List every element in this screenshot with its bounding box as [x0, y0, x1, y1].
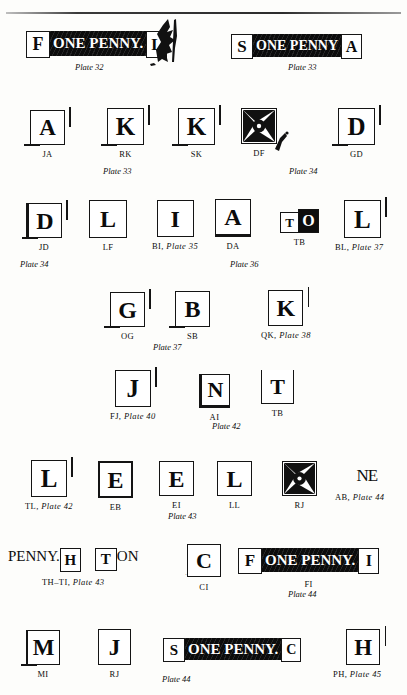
- corner-letter-ll: L LL: [217, 461, 252, 510]
- corner-letter-mi: M MI: [26, 630, 60, 679]
- plate-caption-text: Plate 37: [352, 242, 384, 252]
- letter-glyph: K: [268, 290, 303, 326]
- torn-paper-edge-icon: [144, 18, 180, 66]
- letter-band: NE: [354, 466, 379, 488]
- plate-caption: Plate 42: [212, 421, 241, 431]
- corner-letter-ab: NE AB, Plate 44: [349, 466, 384, 502]
- maltese-cross-rj: RJ: [282, 461, 317, 510]
- penny-band: PENNY.: [8, 548, 60, 570]
- letter-pair: T O: [280, 209, 319, 233]
- plate-caption-text: Plate 38: [279, 330, 311, 340]
- corner-letter-lf: L LF: [89, 200, 127, 252]
- letter-glyph: A: [30, 110, 65, 145]
- corner-letter-ja: A JA: [30, 110, 65, 159]
- plate-caption-text: Plate 34: [289, 166, 318, 176]
- plate-caption-text: Plate 44: [162, 674, 191, 684]
- one-penny-band: ONE PENNY.: [50, 31, 146, 56]
- item-caption: RJ: [295, 500, 305, 510]
- item-caption: SB: [187, 331, 198, 341]
- scanned-page: F ONE PENNY. L Plate 32 S ONE PENNY A Pl…: [0, 0, 407, 695]
- item-caption: GD: [350, 149, 363, 159]
- corner-letter-box: F: [238, 548, 262, 574]
- plate-caption-text: Plate 37: [153, 342, 182, 352]
- letter-glyph: L: [89, 200, 127, 238]
- letter-glyph: K: [107, 108, 144, 145]
- corner-letter-tl: L TL, Plate 42: [25, 460, 73, 511]
- item-caption: MI: [37, 669, 48, 679]
- letter-glyph: D: [26, 203, 62, 238]
- corner-letter-ci: C CI: [187, 544, 221, 592]
- corner-letter-box: S: [231, 34, 253, 59]
- item-caption: EB: [110, 502, 122, 512]
- letter-glyph: L: [31, 460, 67, 497]
- letter-glyph: L: [344, 200, 381, 238]
- item-caption: CI: [199, 582, 208, 592]
- plate-caption: Plate 34: [20, 259, 49, 269]
- edge-speck: ·: [185, 572, 187, 578]
- letter-glyph: N: [199, 374, 230, 408]
- plate-caption-text: Plate 42: [212, 421, 241, 431]
- letter-glyph: B: [175, 291, 210, 327]
- corner-letter-box-end: A: [341, 34, 362, 59]
- plate-caption-text: Plate 43: [168, 511, 197, 521]
- plate-caption: Plate 44: [162, 674, 191, 684]
- item-caption-id: TH–TI,: [42, 577, 70, 587]
- plate-caption: Plate 33: [103, 166, 132, 176]
- item-caption: BI, Plate 35: [152, 241, 198, 251]
- letter-glyph: J: [115, 370, 151, 407]
- letter-glyph: I: [157, 200, 194, 237]
- one-penny-band: ONE PENNY.: [262, 548, 358, 572]
- second-corner-letter-box: T: [95, 548, 117, 571]
- corner-letter-sb: B SB: [175, 291, 210, 341]
- plate-caption-text: Plate 43: [73, 577, 105, 587]
- corner-letter-bl: L BL, Plate 37: [341, 200, 383, 252]
- item-caption: TB: [294, 237, 306, 247]
- plate-fragment-fi: F ONE PENNY. I FI: [238, 548, 379, 589]
- item-caption: LL: [229, 500, 240, 510]
- item-caption: PH, Plate 45: [333, 669, 382, 679]
- plate-caption: Plate 32: [75, 62, 104, 72]
- item-caption: TL, Plate 42: [25, 501, 73, 511]
- item-caption-id: BL,: [335, 242, 349, 252]
- item-caption-id: AB,: [335, 492, 350, 502]
- plate-caption-text: Plate 33: [288, 62, 317, 72]
- stamp-strip: F ONE PENNY. I: [238, 548, 379, 574]
- plate-caption: Plate 34: [289, 166, 318, 176]
- item-caption-id: QK,: [261, 330, 277, 340]
- one-penny-band: ONE PENNY: [253, 34, 341, 57]
- corner-letter-box-end: C: [281, 638, 301, 662]
- item-caption: BL, Plate 37: [335, 242, 383, 252]
- plate-caption-text: Plate 42: [41, 501, 73, 511]
- corner-letter-tb2: T TB: [261, 370, 294, 418]
- letter-glyph: E: [98, 461, 133, 498]
- item-caption: TH–TI, Plate 43: [42, 577, 104, 587]
- item-caption: FJ, Plate 40: [110, 411, 156, 421]
- letter-glyph: T: [261, 370, 294, 404]
- plate-caption: Plate 36: [230, 259, 259, 269]
- plate-fragment-p33: S ONE PENNY A: [231, 34, 362, 59]
- corner-letter-gd: D GD: [338, 108, 375, 159]
- letter-glyph: K: [178, 108, 215, 145]
- item-caption: JA: [42, 149, 52, 159]
- plate-fragment-thti: PENNY. H T ON TH–TI, Plate 43: [8, 548, 139, 587]
- second-band: ON: [117, 548, 139, 570]
- letter-glyph: A: [215, 199, 251, 237]
- corner-letter-da: A DA: [215, 199, 251, 251]
- plate-caption-text: Plate 40: [124, 411, 156, 421]
- letter-glyph: C: [187, 544, 221, 577]
- item-caption: JD: [39, 242, 49, 252]
- maltese-cross-icon: [282, 461, 317, 496]
- plate-fragment-sc: S ONE PENNY. C: [163, 638, 301, 662]
- plate-caption: Plate 37: [153, 342, 182, 352]
- item-caption: TB: [272, 408, 284, 418]
- plate-caption-text: Plate 36: [230, 259, 259, 269]
- corner-letter-eb: E EB: [98, 461, 133, 512]
- item-caption: OG: [121, 331, 134, 341]
- letter-glyph: T: [280, 212, 299, 233]
- item-caption: FI: [304, 579, 312, 589]
- corner-letter-box: F: [26, 31, 50, 58]
- plate-caption-text: Plate 35: [166, 241, 198, 251]
- item-caption: EI: [172, 500, 181, 510]
- item-caption: DA: [226, 241, 239, 251]
- page-top-rule: [6, 12, 401, 14]
